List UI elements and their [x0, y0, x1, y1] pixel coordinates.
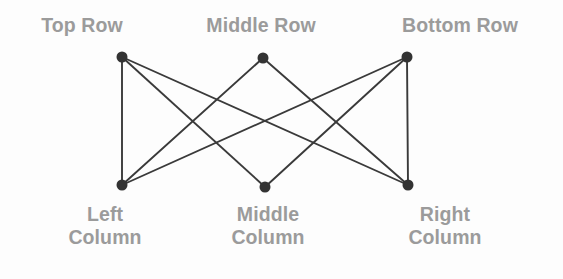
edge-layer	[122, 57, 408, 187]
graph-node-top-left	[117, 52, 128, 63]
bottom-row-label: Bottom Row	[402, 14, 518, 37]
right-column-label-line2: Column	[408, 226, 481, 249]
middle-column-label-line2: Column	[231, 226, 304, 249]
top-row-label: Top Row	[41, 14, 123, 37]
left-column-label: Left Column	[68, 203, 141, 249]
right-column-label: Right Column	[408, 203, 481, 249]
diagram-canvas: Top Row Middle Row Bottom Row Left Colum…	[0, 0, 563, 279]
graph-node-bottom-right	[403, 180, 414, 191]
graph-node-top-right	[402, 52, 413, 63]
middle-row-label: Middle Row	[206, 14, 315, 37]
left-column-label-line1: Left	[87, 203, 123, 225]
right-column-label-line1: Right	[420, 203, 470, 225]
graph-node-top-middle	[258, 53, 269, 64]
middle-column-label-line1: Middle	[237, 203, 299, 225]
graph-edge	[407, 57, 408, 185]
graph-node-bottom-left	[117, 180, 128, 191]
middle-column-label: Middle Column	[231, 203, 304, 249]
graph-node-bottom-middle	[260, 182, 271, 193]
graph-edge	[265, 57, 407, 187]
left-column-label-line2: Column	[68, 226, 141, 249]
